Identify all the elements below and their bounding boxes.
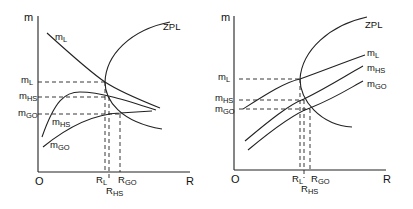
right-y-axis-label: m — [221, 12, 230, 23]
right-y-tick-mGO: mGO — [215, 104, 235, 116]
right-origin-label: O — [231, 174, 240, 185]
right-zpl-label: ZPL — [365, 20, 382, 30]
right-mGO-curve-label: mGO — [367, 79, 387, 91]
left-mL-curve-label: mL — [55, 32, 67, 44]
left-zpl-label: ZPL — [163, 22, 180, 32]
right-x-axis-label: R — [383, 174, 391, 185]
right-y-tick-mL: mL — [218, 72, 230, 84]
right-x-tick-RHS: RHS — [301, 184, 318, 196]
left-x-axis-label: R — [186, 176, 194, 187]
left-y-axis-label: m — [24, 12, 33, 23]
right-panel-lines — [234, 16, 386, 178]
left-y-tick-mHS: mHS — [19, 91, 37, 103]
left-x-tick-RGO: RGO — [118, 175, 137, 187]
right-mGO-curve — [248, 81, 363, 150]
right-mL-curve-label: mL — [367, 48, 379, 60]
left-mHS-curve-label: mHS — [52, 117, 70, 129]
left-origin-label: O — [35, 176, 44, 187]
left-mGO-curve-label: mGO — [50, 140, 70, 152]
left-x-tick-RHS: RHS — [106, 186, 123, 198]
right-mHS-curve-label: mHS — [367, 63, 385, 75]
left-y-tick-mL: mL — [21, 75, 33, 87]
right-x-tick-RGO: RGO — [311, 174, 330, 186]
left-y-tick-mGO: mGO — [18, 108, 38, 120]
